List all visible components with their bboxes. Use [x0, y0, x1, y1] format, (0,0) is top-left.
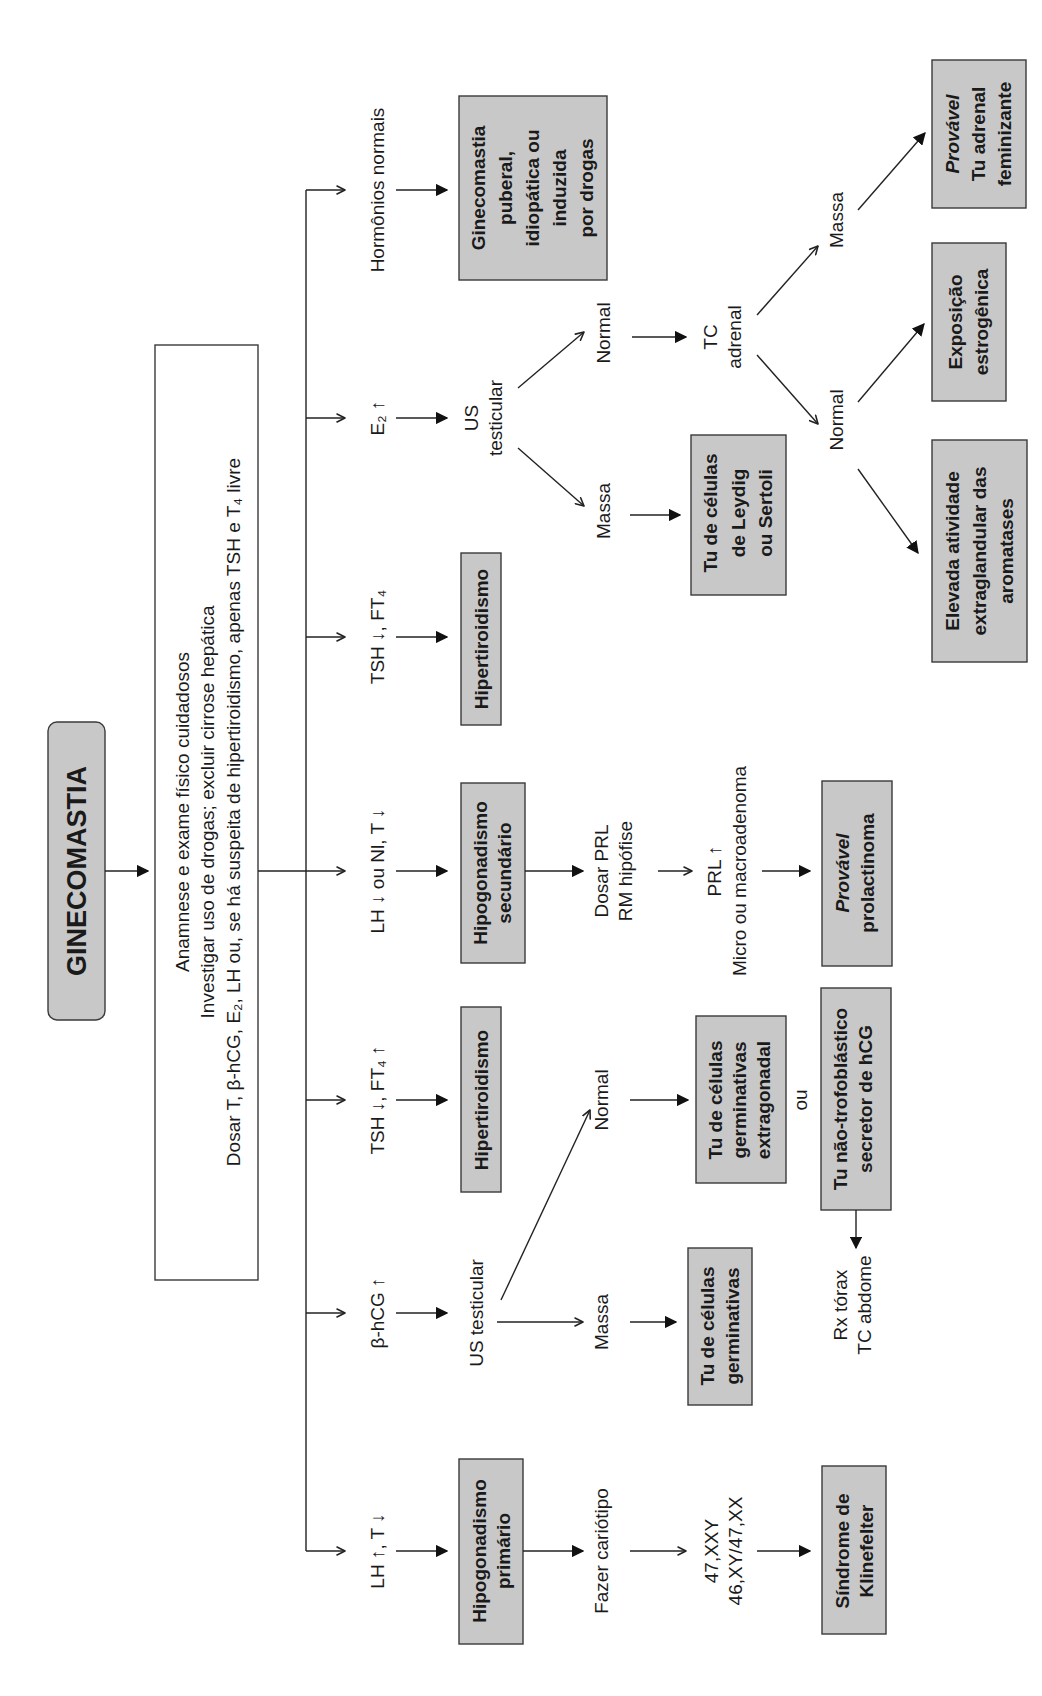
finding-karyotype-2: 46,XY/47,XX [725, 1496, 746, 1605]
label-tu-extragonadal-3: extragonadal [753, 1041, 774, 1159]
followup-rx-torax: Rx tórax [830, 1269, 851, 1340]
exam-us-testicular-2-a: US [461, 405, 482, 431]
label-leydig-2: de Leydig [728, 469, 749, 558]
outcome-normal-2: Normal [593, 302, 614, 363]
arrow-to-normal-2 [518, 332, 584, 388]
outcome-massa-3: Massa [826, 192, 847, 248]
label-tu-extragonadal-1: Tu de células [705, 1041, 726, 1160]
arrow-to-exposicao [858, 324, 924, 402]
branch-bhcg-high: β-hCG ↑ US testicular Massa Tu de célula… [367, 988, 891, 1405]
branch-lh-low: LH ↓ ou Nl, T ↓ Hipogonadismo secundário… [367, 765, 892, 976]
condition-lh-high: LH ↑, T ↓ [367, 1513, 388, 1588]
title-node: GINECOMASTIA [48, 722, 105, 1020]
label-hipertiroidismo-2: Hipertiroidismo [471, 569, 492, 709]
instructions-line-3: Dosar T, β-hCG, E₂, LH ou, se há suspeit… [223, 458, 244, 1166]
label-ginecomastia-5: por drogas [576, 138, 597, 237]
instructions-node: Anamnese e exame físico cuidadosos Inves… [155, 345, 258, 1280]
exam-adrenal: adrenal [724, 305, 745, 368]
label-tu-nao-trofoblastico-2: secretor de hCG [855, 1025, 876, 1173]
label-aromatases-1: Elevada atividade [942, 471, 963, 630]
arrow-to-normal-1 [501, 1110, 590, 1300]
label-aromatases-2: extraglandular das [969, 467, 990, 636]
label-exposicao-1: Exposição [945, 274, 966, 369]
label-klinefelter-2: Klinefelter [856, 1504, 877, 1598]
label-leydig-3: ou Sertoli [755, 469, 776, 557]
branch-tsh-ft4: TSH ↓, FT₄ Hipertiroidismo [367, 553, 501, 725]
step-cariotipo: Fazer cariótipo [591, 1488, 612, 1614]
exam-tc: TC [700, 324, 721, 349]
label-tu-extragonadal-2: germinativas [729, 1041, 750, 1158]
label-prolactinoma-provavel: Provável [832, 833, 853, 913]
followup-tc-abdome: TC abdome [854, 1255, 875, 1354]
label-tu-adrenal-provavel: Provável [942, 94, 963, 174]
label-aromatases-3: aromatases [996, 498, 1017, 604]
arrow-to-massa-3 [757, 246, 818, 315]
label-hipogonadismo-secundario-2: secundário [494, 822, 515, 923]
exam-us-testicular-2-b: testicular [485, 379, 506, 456]
branch-normal: Hormônios normais Ginecomastia puberal, … [367, 96, 607, 280]
condition-lh-low: LH ↓ ou Nl, T ↓ [367, 809, 388, 934]
outcome-normal-3: Normal [826, 389, 847, 450]
condition-e2-high: E₂ ↑ [367, 401, 388, 436]
condition-bhcg-high: β-hCG ↑ [367, 1277, 388, 1348]
branch-tsh-ft4-high: TSH ↓, FT₄ ↑ Hipertiroidismo [367, 1007, 501, 1192]
label-hipogonadismo-primario-1: Hipogonadismo [469, 1479, 490, 1623]
arrow-to-normal-3 [757, 355, 818, 424]
label-ginecomastia-2: puberal, [495, 151, 516, 225]
label-ginecomastia-3: idiopática ou [522, 129, 543, 246]
arrow-to-aromatases [858, 469, 918, 553]
step-dosar-prl: Dosar PRL [591, 825, 612, 918]
finding-adenoma: Micro ou macroadenoma [729, 765, 750, 976]
label-hipogonadismo-secundario-1: Hipogonadismo [470, 801, 491, 945]
condition-normal: Hormônios normais [367, 108, 388, 273]
label-prolactinoma: prolactinoma [857, 813, 878, 933]
condition-tsh-ft4-high: TSH ↓, FT₄ ↑ [367, 1045, 388, 1154]
label-tu-germinativas-1: Tu de células [697, 1267, 718, 1386]
finding-karyotype-1: 47,XXY [701, 1518, 722, 1583]
label-exposicao-2: estrogênica [971, 268, 992, 375]
label-ginecomastia-1: Ginecomastia [468, 125, 489, 250]
label-hipertiroidismo-1: Hipertiroidismo [471, 1030, 492, 1170]
arrow-to-massa-2 [518, 448, 584, 506]
spine-branch-arrows [306, 190, 345, 1551]
label-tu-adrenal-2: feminizante [994, 82, 1015, 187]
ginecomastia-flowchart: GINECOMASTIA Anamnese e exame físico cui… [0, 0, 1042, 1696]
finding-prl-high: PRL ↑ [704, 845, 725, 896]
outcome-massa-2: Massa [593, 483, 614, 539]
title-text: GINECOMASTIA [62, 766, 92, 976]
or-label: ou [790, 1089, 811, 1110]
exam-us-testicular-1: US testicular [466, 1258, 487, 1366]
label-hipogonadismo-primario-2: primário [493, 1513, 514, 1589]
label-tu-germinativas-2: germinativas [722, 1267, 743, 1384]
label-leydig-1: Tu de células [700, 454, 721, 573]
label-klinefelter-1: Síndrome de [832, 1493, 853, 1608]
branch-lh-high: LH ↑, T ↓ Hipogonadismo primário Fazer c… [367, 1459, 886, 1644]
outcome-normal-1: Normal [591, 1069, 612, 1130]
condition-tsh-ft4: TSH ↓, FT₄ [367, 590, 388, 685]
outcome-massa-1: Massa [591, 1294, 612, 1350]
arrow-to-tu-adrenal [858, 133, 925, 210]
label-tu-adrenal-1: Tu adrenal [968, 87, 989, 182]
step-rm-hipofise: RM hipófise [615, 821, 636, 921]
label-tu-nao-trofoblastico-1: Tu não-trofoblástico [830, 1008, 851, 1190]
instructions-line-2: Investigar uso de drogas; excluir cirros… [197, 605, 218, 1018]
label-ginecomastia-4: induzida [549, 149, 570, 226]
instructions-line-1: Anamnese e exame físico cuidadosos [172, 652, 193, 972]
box-exposicao-estrogenica [932, 243, 1006, 401]
